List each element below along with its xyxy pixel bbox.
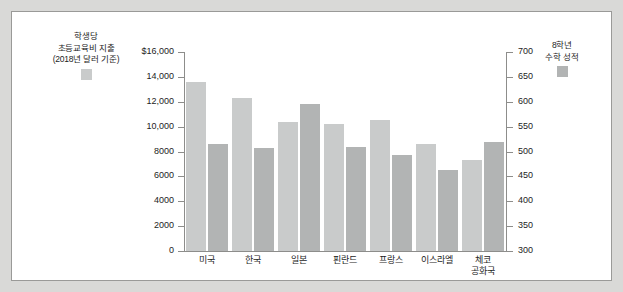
bar-group: 프랑스 — [368, 52, 414, 251]
category-label: 일본 — [276, 255, 322, 266]
bar-group: 체코공화국 — [460, 52, 506, 251]
right-axis-tick — [507, 176, 513, 177]
right-axis-tick — [507, 251, 513, 252]
right-axis-tick-label: 300 — [518, 245, 558, 255]
right-axis-tick-label: 400 — [518, 195, 558, 205]
legend-score-swatch — [557, 66, 568, 77]
left-axis-tick-label: 10,000 — [116, 121, 174, 131]
bar-score — [254, 148, 275, 251]
left-axis-tick-label: 0 — [116, 245, 174, 255]
category-label: 핀란드 — [322, 255, 368, 266]
left-axis-tick-label: 12,000 — [116, 96, 174, 106]
left-axis-tick-label: 2000 — [116, 220, 174, 230]
right-axis-tick — [507, 77, 513, 78]
bar-score — [392, 155, 413, 251]
category-label-line: 체코 — [460, 255, 506, 266]
category-label-line: 일본 — [276, 255, 322, 266]
bar-group: 미국 — [184, 52, 230, 251]
right-axis-tick-label: 550 — [518, 121, 558, 131]
bar-group: 핀란드 — [322, 52, 368, 251]
right-axis-tick — [507, 102, 513, 103]
category-label-line: 공화국 — [460, 266, 506, 277]
right-axis-tick — [507, 127, 513, 128]
bar-score — [484, 142, 505, 251]
bar-spending — [324, 124, 345, 251]
category-label-line: 이스라엘 — [414, 255, 460, 266]
bottom-axis-line — [184, 251, 507, 252]
bar-group: 일본 — [276, 52, 322, 251]
category-label: 체코공화국 — [460, 255, 506, 277]
bar-score — [208, 144, 229, 251]
category-label-line: 한국 — [230, 255, 276, 266]
bar-spending — [186, 82, 207, 251]
left-axis-tick — [178, 251, 184, 252]
right-axis-tick-label: 500 — [518, 146, 558, 156]
right-axis-tick-label: 450 — [518, 170, 558, 180]
category-label-line: 핀란드 — [322, 255, 368, 266]
bar-spending — [370, 120, 391, 251]
right-axis-tick-label: 600 — [518, 96, 558, 106]
left-axis-tick-label: 6000 — [116, 170, 174, 180]
right-axis-tick-label: 650 — [518, 71, 558, 81]
bar-spending — [416, 144, 437, 251]
category-label-line: 프랑스 — [368, 255, 414, 266]
bar-score — [438, 170, 459, 251]
left-axis-tick-label: 14,000 — [116, 71, 174, 81]
bar-spending — [462, 160, 483, 251]
right-axis-tick — [507, 52, 513, 53]
left-axis-tick-label: $16,000 — [116, 46, 174, 56]
category-label: 한국 — [230, 255, 276, 266]
plot-stage: 학생당 초등교육비 지출 (2018년 달러 기준) 8학년 수학 성적 020… — [12, 12, 611, 280]
category-label: 프랑스 — [368, 255, 414, 266]
left-axis-tick-label: 4000 — [116, 195, 174, 205]
right-axis-tick — [507, 152, 513, 153]
category-label-line: 미국 — [184, 255, 230, 266]
bar-score — [346, 147, 367, 251]
right-axis-tick-label: 700 — [518, 46, 558, 56]
chart-figure: 학생당 초등교육비 지출 (2018년 달러 기준) 8학년 수학 성적 020… — [11, 11, 612, 281]
left-axis-tick-label: 8000 — [116, 146, 174, 156]
legend-spending-swatch — [81, 69, 92, 80]
legend-spending-line1: 학생당 — [28, 31, 144, 43]
bar-score — [300, 104, 321, 251]
category-label: 이스라엘 — [414, 255, 460, 266]
right-axis-tick — [507, 201, 513, 202]
bar-group: 한국 — [230, 52, 276, 251]
category-label: 미국 — [184, 255, 230, 266]
right-axis-tick-label: 350 — [518, 220, 558, 230]
right-axis-tick — [507, 226, 513, 227]
bar-group: 이스라엘 — [414, 52, 460, 251]
bar-spending — [278, 122, 299, 251]
bar-spending — [232, 98, 253, 251]
